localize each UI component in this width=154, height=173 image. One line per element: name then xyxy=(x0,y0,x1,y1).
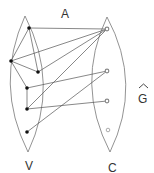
edge xyxy=(27,29,107,109)
label-c: C xyxy=(108,161,117,173)
hat-accent-icon xyxy=(139,84,148,88)
vertex-node xyxy=(9,59,13,63)
label-g: G xyxy=(138,92,147,106)
bipartite-graph-diagram: A V C G xyxy=(0,0,154,173)
vertex-node xyxy=(36,70,40,74)
vertex-node xyxy=(27,26,31,30)
edge xyxy=(27,71,107,88)
edge xyxy=(38,29,107,72)
vertex-node xyxy=(25,107,29,111)
edge xyxy=(27,101,107,109)
label-v: V xyxy=(25,159,33,173)
edge xyxy=(27,71,107,132)
label-a: A xyxy=(61,7,69,21)
vertex-node xyxy=(25,130,29,134)
constraint-node xyxy=(105,27,109,31)
constraint-node xyxy=(106,128,110,132)
constraint-node xyxy=(105,69,109,73)
vertex-node xyxy=(25,86,29,90)
edge xyxy=(11,61,27,88)
edge xyxy=(29,28,107,29)
constraint-node xyxy=(105,99,109,103)
edge xyxy=(11,61,38,72)
edges xyxy=(11,28,107,132)
edge xyxy=(11,29,107,61)
